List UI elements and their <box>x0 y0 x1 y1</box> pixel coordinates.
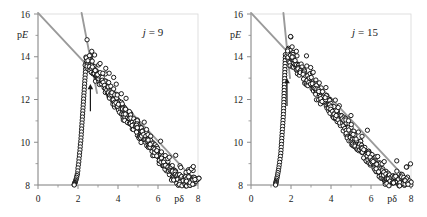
data-point <box>142 120 146 124</box>
panel-tag-value: 9 <box>158 26 164 38</box>
y-axis-title-symbol: E <box>234 29 241 40</box>
data-point <box>158 139 162 143</box>
y-axis-title-symbol: E <box>21 29 28 40</box>
data-point <box>155 149 159 153</box>
data-point <box>85 38 89 42</box>
y-tick-label: 12 <box>234 95 244 105</box>
x-axis-title-symbol: δ <box>392 193 397 204</box>
panel-tag-value: 15 <box>367 26 379 38</box>
panel-left: 02468810121416j = 9pEpδ <box>0 0 214 217</box>
y-axis-title: pE <box>230 29 241 40</box>
data-point <box>107 71 111 75</box>
x-axis-title: pδ <box>174 193 184 204</box>
data-point <box>336 105 340 109</box>
panel-tag-equals: = <box>355 26 367 38</box>
data-point <box>294 49 298 53</box>
data-point <box>323 96 327 100</box>
data-point <box>288 34 292 38</box>
data-point <box>119 92 123 96</box>
data-point <box>304 54 308 58</box>
y-tick-label: 10 <box>21 138 31 148</box>
data-point <box>354 137 358 141</box>
data-point <box>174 153 178 157</box>
scatter-points <box>72 38 201 189</box>
x-axis-title-symbol: δ <box>179 193 184 204</box>
data-point <box>135 126 139 130</box>
data-point <box>124 96 128 100</box>
data-point <box>191 182 195 186</box>
data-point <box>290 45 294 49</box>
panel-tag-right: j = 15 <box>350 26 378 38</box>
data-point <box>391 181 395 185</box>
data-point <box>86 59 90 63</box>
data-point <box>349 122 353 126</box>
data-point <box>101 71 105 75</box>
data-point <box>104 66 108 70</box>
y-tick-label: 10 <box>234 138 244 148</box>
data-point <box>90 49 94 53</box>
data-point <box>347 128 351 132</box>
x-tick-label: 0 <box>36 194 41 204</box>
data-point <box>311 70 315 74</box>
data-point <box>404 165 408 169</box>
data-point <box>349 113 353 117</box>
data-point <box>356 130 360 134</box>
data-point <box>285 49 289 53</box>
data-point <box>72 183 76 187</box>
data-point <box>144 127 148 131</box>
data-point <box>376 154 380 158</box>
y-axis-title: pE <box>17 29 28 40</box>
y-tick-label: 12 <box>21 95 31 105</box>
arrow-head <box>88 84 94 89</box>
data-point <box>334 113 338 117</box>
x-tick-label: 2 <box>76 194 81 204</box>
data-point <box>395 169 399 173</box>
y-tick-label: 14 <box>21 52 31 62</box>
x-axis-title: pδ <box>387 193 397 204</box>
data-point <box>90 59 94 63</box>
data-point <box>309 75 313 79</box>
x-tick-label: 8 <box>409 194 414 204</box>
x-tick-label: 4 <box>116 194 121 204</box>
data-point <box>317 81 321 85</box>
data-point <box>123 112 127 116</box>
data-point <box>134 130 138 134</box>
panel-right: 02468810121416j = 15pEpδ <box>213 0 427 217</box>
y-tick-label: 16 <box>234 10 244 20</box>
data-point <box>351 132 355 136</box>
data-point <box>365 128 369 132</box>
data-point <box>167 155 171 159</box>
data-point <box>382 159 386 163</box>
figure-container: 02468810121416j = 9pEpδ 02468810121416j … <box>0 0 427 217</box>
data-point <box>324 85 328 89</box>
y-tick-label: 14 <box>234 52 244 62</box>
data-point <box>193 177 197 181</box>
data-point <box>112 75 116 79</box>
plot-right: 02468810121416j = 15pEpδ <box>213 0 427 217</box>
data-point <box>146 138 150 142</box>
data-point <box>179 165 183 169</box>
data-point <box>93 68 97 72</box>
data-point <box>187 175 191 179</box>
data-point <box>333 98 337 102</box>
x-tick-label: 8 <box>196 194 201 204</box>
y-tick-label: 16 <box>21 10 31 20</box>
data-point <box>309 65 313 69</box>
panel-tag-equals: = <box>146 26 158 38</box>
x-tick-label: 0 <box>249 194 254 204</box>
data-point <box>148 142 152 146</box>
data-point <box>87 54 91 58</box>
data-point <box>320 90 324 94</box>
data-point <box>159 150 163 154</box>
data-point <box>273 183 277 187</box>
data-point <box>293 58 297 62</box>
plot-left: 02468810121416j = 9pEpδ <box>0 0 214 217</box>
data-point <box>406 182 410 186</box>
panel-tag-left: j = 9 <box>141 26 164 38</box>
arrow-annotation <box>88 84 94 111</box>
x-tick-label: 2 <box>289 194 294 204</box>
data-point <box>395 159 399 163</box>
x-tick-label: 6 <box>156 194 161 204</box>
data-point <box>191 164 195 168</box>
y-tick-label: 8 <box>238 181 243 191</box>
